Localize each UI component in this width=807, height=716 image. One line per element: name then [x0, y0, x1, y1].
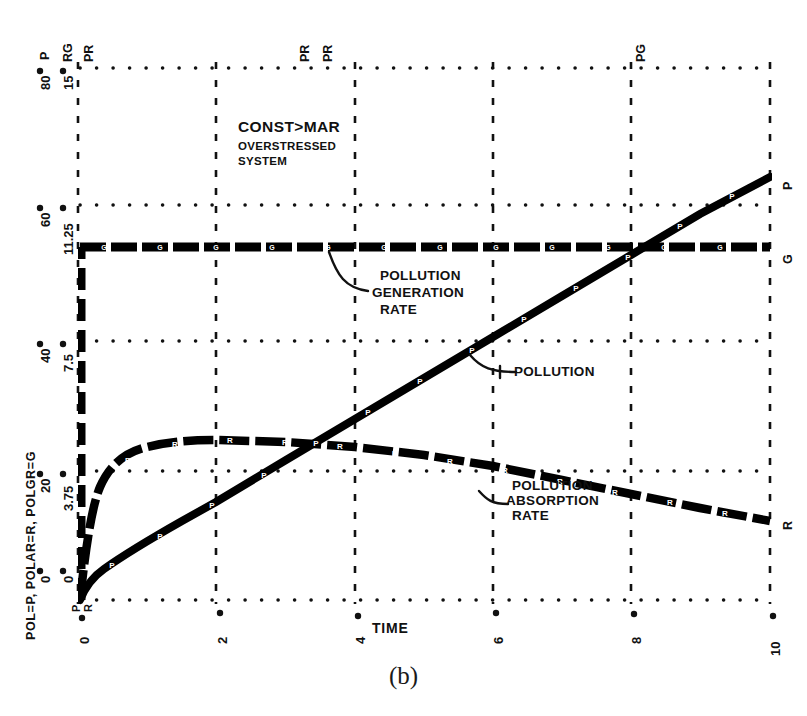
svg-text:P: P: [109, 561, 115, 570]
series-pollution: P P P P P P P P P P P P P: [80, 177, 770, 600]
chart-svg: G G G G G G G G G G G G R R R: [0, 0, 807, 716]
svg-text:R: R: [447, 457, 453, 466]
callout-pollution-absorption-rate: POLLUTION ABSORPTION RATE: [506, 478, 599, 523]
x-tick-6: 6: [491, 637, 506, 644]
svg-text:G: G: [101, 244, 107, 251]
svg-text:G: G: [605, 244, 611, 251]
callout-absorption-line-3: RATE: [512, 508, 599, 523]
svg-text:R: R: [392, 449, 398, 458]
top-marker-pr-2: PR: [321, 45, 335, 62]
y-tick-rg-3-75: 3.75: [61, 486, 76, 511]
svg-text:R: R: [282, 438, 288, 447]
x-tick-8: 8: [629, 637, 644, 644]
svg-text:P: P: [313, 439, 319, 448]
annotation-line-1: CONST>MAR: [238, 118, 340, 136]
svg-text:P: P: [521, 315, 527, 324]
svg-text:P: P: [677, 222, 683, 231]
figure-caption: (b): [0, 662, 807, 690]
right-marker-p: P: [781, 182, 795, 190]
y-tick-p-80: 80: [38, 76, 53, 90]
svg-text:G: G: [437, 244, 443, 251]
right-marker-r: R: [781, 521, 795, 530]
y-tick-rg-0: 0: [61, 576, 76, 583]
figure-root: G G G G G G G G G G G G R R R: [0, 0, 807, 716]
svg-text:P: P: [157, 532, 163, 541]
svg-text:G: G: [661, 244, 667, 251]
annotation-line-3: SYSTEM: [238, 155, 340, 167]
callout-generation-line-2: GENERATION: [372, 285, 464, 300]
y-tick-p-20: 20: [38, 479, 53, 493]
top-marker-pg: PG: [634, 44, 648, 62]
svg-text:R: R: [172, 440, 178, 449]
svg-text:G: G: [717, 244, 723, 251]
svg-text:R: R: [502, 466, 508, 475]
svg-text:P: P: [729, 192, 735, 201]
callout-absorption-line-2: ABSORPTION: [506, 493, 599, 508]
y-tick-p-0: 0: [38, 576, 53, 583]
svg-text:G: G: [325, 244, 331, 251]
y-tick-p-60: 60: [38, 213, 53, 227]
x-axis-title: TIME: [372, 620, 409, 636]
svg-text:P: P: [365, 408, 371, 417]
svg-text:R: R: [227, 436, 233, 445]
svg-text:G: G: [381, 244, 387, 251]
svg-text:G: G: [213, 244, 219, 251]
y-tick-rg-7-5: 7.5: [61, 354, 76, 372]
svg-text:R: R: [337, 442, 343, 451]
top-marker-pr-1: PR: [298, 45, 312, 62]
svg-text:R: R: [612, 488, 618, 497]
callout-absorption-line-1: POLLUTION: [512, 478, 599, 493]
svg-text:P: P: [261, 471, 267, 480]
svg-text:R: R: [125, 456, 131, 465]
y-axis-2-symbol: RG: [61, 43, 75, 62]
right-marker-g: G: [781, 254, 795, 264]
svg-text:G: G: [269, 244, 275, 251]
svg-text:R: R: [667, 498, 673, 507]
y-tick-rg-11-25: 11.25: [61, 223, 76, 255]
svg-text:P: P: [209, 501, 215, 510]
origin-marker-r: R: [82, 604, 94, 612]
svg-text:P: P: [573, 284, 579, 293]
annotation-block: CONST>MAR OVERSTRESSED SYSTEM: [238, 118, 340, 167]
svg-text:G: G: [157, 244, 163, 251]
y-tick-rg-15: 15: [61, 76, 76, 90]
x-tick-10: 10: [768, 642, 783, 656]
annotation-line-2: OVERSTRESSED: [238, 140, 340, 152]
svg-text:G: G: [493, 244, 499, 251]
x-tick-0: 0: [77, 637, 92, 644]
x-tick-2: 2: [215, 637, 230, 644]
callout-pollution-generation-rate: POLLUTION GENERATION RATE: [372, 268, 464, 317]
svg-text:G: G: [549, 244, 555, 251]
x-tick-4: 4: [353, 637, 368, 644]
callout-generation-line-3: RATE: [380, 302, 464, 317]
y-axis-1-symbol: P: [38, 52, 52, 60]
svg-text:R: R: [722, 509, 728, 518]
origin-marker-p: P: [70, 605, 82, 612]
y-tick-p-40: 40: [38, 349, 53, 363]
callout-generation-line-1: POLLUTION: [380, 268, 464, 283]
svg-text:P: P: [417, 377, 423, 386]
y-axis-title: POL=P, POLAR=R, POLGR=G: [24, 451, 38, 640]
origin-marker-pr: PR: [82, 45, 96, 62]
callout-pollution: POLLUTION: [514, 364, 595, 379]
svg-text:P: P: [625, 253, 631, 262]
svg-text:P: P: [469, 346, 475, 355]
